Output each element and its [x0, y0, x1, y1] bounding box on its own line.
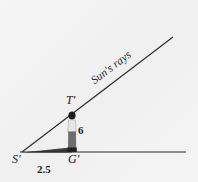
- sun-rays-shadow-diagram: T' S' G' 6 2.5 Sun's rays: [0, 0, 198, 182]
- label-shadow-measure: 2.5: [37, 164, 51, 175]
- sun-ray-line: [22, 37, 173, 152]
- label-height-measure: 6: [78, 125, 84, 136]
- person-figure: [68, 112, 77, 152]
- person-head-icon: [68, 112, 75, 120]
- person-trousers: [68, 132, 76, 149]
- person-shirt: [68, 120, 76, 132]
- label-point-g-prime: G': [68, 153, 79, 165]
- diagram-canvas: [0, 0, 198, 182]
- label-point-s-prime: S': [12, 153, 21, 165]
- label-point-t-prime: T': [66, 94, 75, 106]
